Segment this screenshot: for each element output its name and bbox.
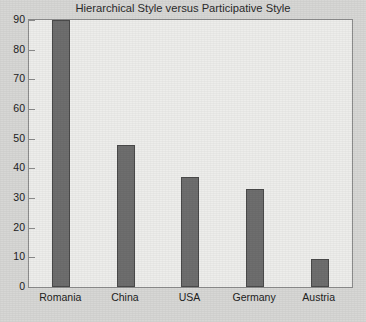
bar-slot (287, 20, 352, 287)
x-axis-tick-label: USA (157, 291, 222, 304)
y-axis-tick-label: 70 (1, 73, 25, 83)
bar-chart-figure: Hierarchical Style versus Participative … (0, 0, 366, 322)
y-axis-tick-label: 10 (1, 251, 25, 261)
x-axis-tick-label: Austria (286, 291, 351, 304)
y-axis-tick-label: 0 (1, 281, 25, 291)
bar-slot (158, 20, 223, 287)
y-axis-tick-label: 30 (1, 192, 25, 202)
bar-usa (181, 177, 199, 287)
bar-china (117, 145, 135, 287)
bar-slot (94, 20, 159, 287)
y-axis-tick-label: 90 (1, 14, 25, 24)
bar-romania (52, 20, 70, 287)
y-axis-tick-label: 50 (1, 133, 25, 143)
bar-slot (223, 20, 288, 287)
x-axis-labels: RomaniaChinaUSAGermanyAustria (28, 291, 353, 307)
plot-area (28, 19, 353, 288)
y-axis-tick-label: 80 (1, 44, 25, 54)
bar-austria (311, 259, 329, 287)
bar-germany (246, 189, 264, 287)
plot-inner (29, 20, 352, 287)
y-axis-labels: 0102030405060708090 (0, 19, 25, 288)
x-axis-tick-label: Germany (222, 291, 287, 304)
x-axis-tick-label: Romania (28, 291, 93, 304)
y-axis-tick-label: 40 (1, 162, 25, 172)
x-axis-tick-label: China (93, 291, 158, 304)
bar-slot (29, 20, 94, 287)
chart-title: Hierarchical Style versus Participative … (0, 2, 366, 15)
y-axis-tick-label: 60 (1, 103, 25, 113)
y-axis-tick-label: 20 (1, 222, 25, 232)
y-axis-tick-mark (29, 287, 35, 288)
